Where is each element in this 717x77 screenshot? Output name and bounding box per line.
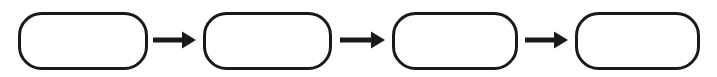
flow-node-shape[interactable]	[205, 14, 331, 69]
flow-node-2[interactable]	[205, 14, 331, 69]
flow-node-1[interactable]	[20, 14, 147, 69]
flow-node-shape[interactable]	[577, 14, 699, 69]
arrow-head-icon	[554, 32, 568, 49]
flow-connector-arrow	[153, 32, 196, 49]
process-flow-diagram	[0, 0, 717, 77]
flow-node-shape[interactable]	[394, 14, 517, 69]
flow-node-3[interactable]	[394, 14, 517, 69]
arrow-shaft	[525, 38, 554, 43]
diagram-canvas-svg	[0, 0, 717, 77]
flow-connector-arrow	[525, 32, 568, 49]
arrow-shaft	[340, 38, 371, 43]
arrow-shaft	[153, 38, 182, 43]
flow-node-4[interactable]	[577, 14, 699, 69]
flow-connector-arrow	[340, 32, 385, 49]
flow-node-shape[interactable]	[20, 14, 147, 69]
arrow-head-icon	[182, 32, 196, 49]
arrow-head-icon	[371, 32, 385, 49]
